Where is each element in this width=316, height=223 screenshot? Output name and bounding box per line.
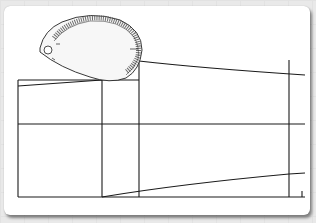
french-curve-ruler <box>40 15 142 80</box>
hem-curve <box>102 173 305 197</box>
pattern-diagram <box>0 0 316 223</box>
